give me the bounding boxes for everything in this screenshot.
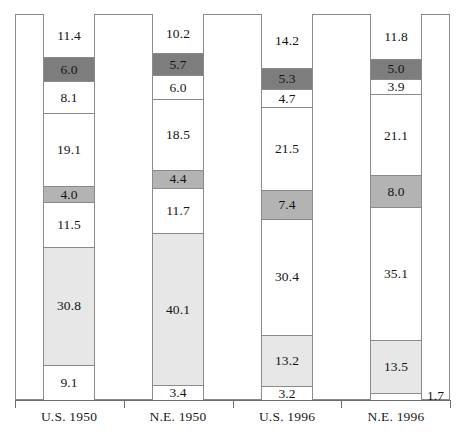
bar-segment[interactable]: 30.8 bbox=[44, 247, 94, 365]
bar-segment[interactable]: 6.0 bbox=[153, 75, 203, 99]
x-axis-tick bbox=[15, 401, 16, 408]
bar-segment[interactable]: 5.3 bbox=[262, 68, 312, 89]
bar-segment[interactable]: 4.0 bbox=[44, 186, 94, 202]
segment-value-label: 13.5 bbox=[384, 360, 408, 374]
bar-segment[interactable]: 30.4 bbox=[262, 219, 312, 335]
x-axis-category-label: N.E. 1950 bbox=[124, 409, 232, 425]
x-axis-tick bbox=[341, 401, 342, 408]
segment-value-label: 3.4 bbox=[169, 386, 186, 400]
segment-value-label: 5.3 bbox=[278, 72, 295, 86]
bar-segment[interactable]: 9.1 bbox=[44, 365, 94, 400]
segment-value-label: 40.1 bbox=[166, 303, 190, 317]
bar-segment[interactable]: 4.4 bbox=[153, 170, 203, 188]
bar-segment[interactable]: 40.1 bbox=[153, 233, 203, 386]
bar-segment[interactable]: 6.0 bbox=[44, 57, 94, 81]
segment-value-label: 7.4 bbox=[278, 198, 295, 212]
bar-n-e-1950[interactable]: 10.25.76.018.54.411.740.13.4 bbox=[152, 14, 204, 400]
segment-value-label: 11.5 bbox=[57, 218, 81, 232]
segment-value-label: 4.7 bbox=[278, 92, 295, 106]
x-axis-tick bbox=[124, 401, 125, 408]
x-axis-tick bbox=[450, 401, 451, 408]
segment-value-label: 3.9 bbox=[387, 80, 404, 94]
segment-value-label: 35.1 bbox=[384, 267, 408, 281]
bar-segment[interactable]: 10.2 bbox=[153, 14, 203, 53]
bar-segment[interactable]: 11.8 bbox=[371, 14, 421, 59]
segment-value-label: 8.0 bbox=[387, 185, 404, 199]
bar-segment[interactable]: 7.4 bbox=[262, 190, 312, 219]
segment-value-label: 10.2 bbox=[166, 27, 190, 41]
bar-segment[interactable]: 8.1 bbox=[44, 81, 94, 113]
segment-value-label: 14.2 bbox=[275, 34, 299, 48]
segment-value-label: 30.8 bbox=[57, 299, 81, 313]
segment-value-label: 5.0 bbox=[387, 62, 404, 76]
bar-segment[interactable]: 19.1 bbox=[44, 113, 94, 186]
bar-u-s-1950[interactable]: 11.46.08.119.14.011.530.89.1 bbox=[43, 14, 95, 400]
x-axis-category-label: N.E. 1996 bbox=[342, 409, 450, 425]
segment-value-label: 3.2 bbox=[278, 387, 295, 401]
bar-segment[interactable]: 4.7 bbox=[262, 89, 312, 108]
segment-value-label: 11.8 bbox=[384, 30, 408, 44]
segment-value-label: 13.2 bbox=[275, 354, 299, 368]
segment-value-label: 30.4 bbox=[275, 270, 299, 284]
segment-value-label: 19.1 bbox=[57, 143, 81, 157]
segment-value-label: 11.4 bbox=[57, 29, 81, 43]
segment-value-label: 6.0 bbox=[169, 81, 186, 95]
x-axis-category-label: U.S. 1996 bbox=[233, 409, 341, 425]
segment-value-label: 6.0 bbox=[60, 63, 77, 77]
segment-value-label: 8.1 bbox=[60, 91, 77, 105]
bar-segment[interactable]: 5.0 bbox=[371, 59, 421, 79]
bar-segment[interactable]: 14.2 bbox=[262, 14, 312, 68]
bar-n-e-1996[interactable]: 11.85.03.921.18.035.113.51.7 bbox=[370, 14, 422, 400]
bar-segment[interactable]: 3.2 bbox=[262, 386, 312, 401]
bar-segment[interactable]: 13.5 bbox=[371, 340, 421, 392]
segment-value-label: 18.5 bbox=[166, 128, 190, 142]
x-axis-tick bbox=[233, 401, 234, 408]
segment-value-label: 4.0 bbox=[60, 188, 77, 202]
bar-segment[interactable]: 11.4 bbox=[44, 14, 94, 57]
x-axis-category-label: U.S. 1950 bbox=[15, 409, 123, 425]
stacked-bar-chart: 11.46.08.119.14.011.530.89.110.25.76.018… bbox=[0, 0, 465, 436]
segment-value-label: 21.1 bbox=[384, 129, 408, 143]
bar-segment[interactable]: 13.2 bbox=[262, 335, 312, 386]
bar-segment[interactable]: 3.4 bbox=[153, 385, 203, 400]
bar-segment[interactable]: 21.1 bbox=[371, 94, 421, 175]
bar-segment[interactable]: 18.5 bbox=[153, 99, 203, 170]
bar-segment[interactable]: 3.9 bbox=[371, 79, 421, 95]
segment-value-label: 5.7 bbox=[169, 58, 186, 72]
bar-segment[interactable]: 5.7 bbox=[153, 53, 203, 76]
bar-u-s-1996[interactable]: 14.25.34.721.57.430.413.23.2 bbox=[261, 14, 313, 400]
bar-segment[interactable]: 11.5 bbox=[44, 202, 94, 247]
segment-value-label: 4.4 bbox=[169, 172, 186, 186]
segment-value-label: 21.5 bbox=[275, 142, 299, 156]
bar-segment[interactable]: 21.5 bbox=[262, 107, 312, 189]
bar-segment[interactable]: 35.1 bbox=[371, 207, 421, 341]
segment-value-label: 11.7 bbox=[166, 204, 190, 218]
bar-segment[interactable]: 1.7 bbox=[371, 393, 421, 400]
bar-segment[interactable]: 8.0 bbox=[371, 175, 421, 206]
segment-value-label: 9.1 bbox=[60, 376, 77, 390]
bar-segment[interactable]: 11.7 bbox=[153, 188, 203, 233]
